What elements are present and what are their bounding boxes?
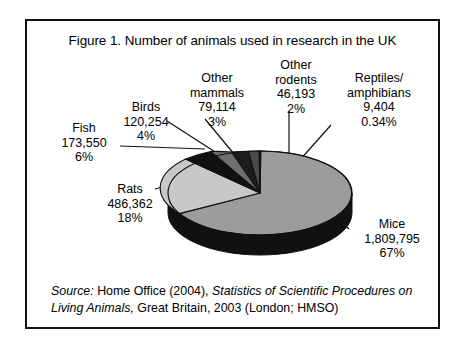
label-fish: Fish 173,550 6%	[40, 121, 128, 165]
pie-slice-fish	[186, 152, 260, 194]
pie-wall-front	[168, 193, 352, 255]
chart-title: Figure 1. Number of animals used in rese…	[27, 33, 438, 48]
label-fish-name: Fish	[40, 121, 128, 136]
pie-rim-outline	[168, 151, 352, 235]
source-note: Source: Home Office (2004), Statistics o…	[51, 283, 421, 317]
pie-slice-mice	[179, 151, 351, 235]
label-reptiles-value: 9,404	[327, 100, 431, 115]
label-mice-percent: 67%	[343, 246, 441, 261]
source-tail: Great Britain, 2003 (London; HMSO)	[137, 301, 338, 315]
label-reptiles-percent: 0.34%	[327, 115, 431, 130]
label-mice-name: Mice	[343, 217, 441, 232]
label-mice-value: 1,809,795	[343, 232, 441, 247]
label-birds-name: Birds	[101, 100, 191, 115]
source-publisher: Home Office (2004),	[97, 284, 208, 298]
figure-frame: Figure 1. Number of animals used in rese…	[25, 19, 440, 329]
label-rats-percent: 18%	[84, 211, 176, 226]
label-other-mammals-name1: Other	[169, 71, 265, 86]
pie-side-wall	[168, 193, 352, 255]
pie-slices	[160, 151, 351, 235]
leader-line-reptiles	[299, 125, 331, 161]
label-rats: Rats 486,362 18%	[84, 182, 176, 226]
pie-slice-other-rodents	[248, 151, 260, 193]
label-fish-percent: 6%	[40, 150, 128, 165]
label-reptiles-name1: Reptiles/	[327, 71, 431, 86]
leader-line-fish	[120, 146, 205, 149]
label-fish-value: 173,550	[40, 136, 128, 151]
label-reptiles-name2: amphibians	[327, 86, 431, 101]
label-reptiles-amphibians: Reptiles/ amphibians 9,404 0.34%	[327, 71, 431, 129]
source-label: Source:	[51, 284, 94, 298]
label-rats-name: Rats	[84, 182, 176, 197]
label-mice: Mice 1,809,795 67%	[343, 217, 441, 261]
label-other-mammals-name2: mammals	[169, 86, 265, 101]
pie-slice-reptiles	[259, 151, 261, 193]
pie-slice-birds	[211, 151, 260, 193]
pie-slice-other-mammals	[232, 151, 260, 193]
label-rats-value: 486,362	[84, 197, 176, 212]
